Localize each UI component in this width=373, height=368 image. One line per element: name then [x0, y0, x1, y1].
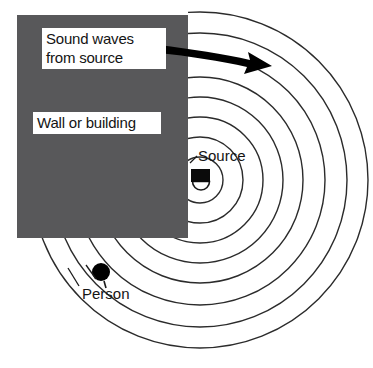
label-sound-waves-line1: Sound waves [46, 30, 134, 47]
label-sound-waves-line2: from source [46, 49, 123, 66]
label-person: Person [82, 285, 130, 303]
label-wall-or-building: Wall or building [33, 112, 161, 134]
source-icon-bowl [193, 182, 210, 191]
source-icon-body [191, 169, 210, 182]
label-sound-waves: Sound wavesfrom source [42, 28, 166, 69]
sound-diffraction-diagram: Sound wavesfrom source Wall or building … [0, 0, 373, 368]
person-dot [92, 263, 110, 281]
person-leader-line-outer [68, 268, 79, 286]
label-source: Source [198, 147, 246, 165]
source-icon [191, 169, 210, 190]
